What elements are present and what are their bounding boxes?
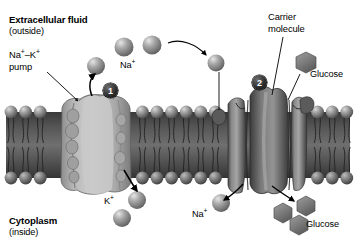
glucose-label-inside: Glucose bbox=[306, 219, 339, 230]
phospholipid-head bbox=[136, 172, 149, 185]
sodium-ion bbox=[143, 36, 162, 55]
glucose-molecule bbox=[297, 196, 315, 216]
sodium-ion-label-inside: Na+ bbox=[192, 209, 207, 220]
extracellular-fluid-label: Extracellular fluid bbox=[9, 14, 88, 25]
potassium-ion bbox=[113, 209, 131, 227]
potassium-ion bbox=[128, 191, 146, 209]
na-top-text: Na bbox=[120, 60, 132, 70]
extracellular-fluid-sublabel: (outside) bbox=[9, 26, 44, 37]
phospholipid-head bbox=[34, 172, 47, 185]
sodium-ion bbox=[212, 194, 230, 212]
potassium-ion-label: K+ bbox=[104, 196, 114, 207]
cytoplasm-label: Cytoplasm bbox=[9, 215, 57, 226]
phospholipid-head bbox=[19, 106, 32, 119]
phospholipid-head bbox=[5, 106, 18, 119]
glucose-molecule bbox=[274, 203, 292, 223]
pump-k-charge: + bbox=[36, 48, 40, 55]
membrane-pore bbox=[212, 109, 226, 125]
phospholipid-head bbox=[34, 106, 47, 119]
sodium-ion-inside-group bbox=[212, 194, 230, 212]
carrier-molecule-label: Carrier bbox=[268, 11, 296, 22]
sodium-ion bbox=[87, 57, 105, 75]
phospholipid-head bbox=[326, 106, 339, 119]
carrier-molecule-protein bbox=[228, 87, 314, 194]
phospholipid-head bbox=[165, 106, 178, 119]
cytoplasm-sublabel: (inside) bbox=[9, 227, 38, 238]
phospholipid-head bbox=[311, 172, 324, 185]
phospholipid-head bbox=[5, 172, 18, 185]
phospholipid-head bbox=[151, 172, 164, 185]
callout-badge-2: 2 bbox=[252, 75, 267, 90]
na-top-charge: + bbox=[132, 58, 136, 65]
sodium-potassium-pump-label-line2: pump bbox=[9, 61, 32, 72]
phospholipid-head bbox=[326, 172, 339, 185]
glucose-leader-arrow bbox=[288, 74, 300, 100]
sodium-ion bbox=[115, 38, 134, 57]
diagram-canvas: 1 2 Extracellular fluid (outside) Na+–K+… bbox=[0, 0, 356, 246]
glucose-label-outside: Glucose bbox=[310, 69, 343, 80]
membrane-scene: 1 2 Extracellular fluid (outside) Na+–K+… bbox=[0, 0, 356, 246]
na-bottom-charge: + bbox=[204, 207, 208, 214]
pump-k: –K bbox=[25, 49, 36, 60]
membrane-illustration bbox=[0, 0, 356, 246]
callout-badge-1: 1 bbox=[103, 83, 118, 98]
phospholipid-head bbox=[136, 106, 149, 119]
potassium-ion-group bbox=[113, 191, 146, 227]
sodium-ion bbox=[208, 55, 225, 72]
pump-leader-arrow bbox=[47, 72, 78, 101]
sodium-ion-outside-group bbox=[87, 36, 225, 76]
phospholipid-head bbox=[151, 106, 164, 119]
phospholipid-head bbox=[180, 172, 193, 185]
na-bottom-text: Na bbox=[192, 209, 204, 219]
sodium-ion-label-outside: Na+ bbox=[120, 60, 135, 71]
sodium-potassium-pump-label: Na+–K+ bbox=[9, 49, 40, 60]
sodium-out-arrow bbox=[90, 74, 95, 96]
phospholipid-head bbox=[165, 172, 178, 185]
carrier-molecule-label-line2: molecule bbox=[268, 23, 305, 34]
sodium-potassium-pump-protein bbox=[61, 95, 131, 195]
k-charge: + bbox=[110, 194, 114, 201]
phospholipid-head bbox=[194, 172, 207, 185]
phospholipid-head bbox=[209, 172, 222, 185]
phospholipid-head bbox=[340, 172, 353, 185]
phospholipid-head bbox=[19, 172, 32, 185]
phospholipid-head bbox=[180, 106, 193, 119]
pump-na: Na bbox=[9, 49, 21, 60]
phospholipid-head bbox=[194, 106, 207, 119]
carrier-leader-arrow bbox=[272, 37, 283, 95]
sodium-transit-arrow bbox=[168, 41, 206, 55]
phospholipid-head bbox=[340, 106, 353, 119]
